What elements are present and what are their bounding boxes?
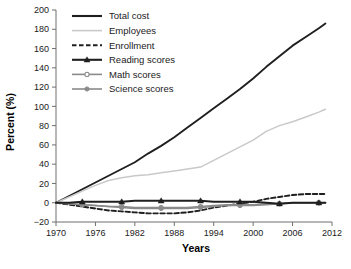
data-point-marker	[120, 205, 124, 209]
x-tick-label: 2000	[243, 228, 263, 238]
legend-item-total-cost[interactable]: Total cost	[72, 10, 149, 21]
legend-item-science-scores[interactable]: Science scores	[72, 83, 174, 94]
x-tick-label: 1976	[85, 228, 105, 238]
series-total-cost	[56, 23, 325, 202]
y-axis-title: Percent (%)	[4, 93, 16, 151]
data-point-marker	[159, 206, 163, 210]
legend-item-math-scores[interactable]: Math scores	[72, 69, 161, 80]
series-group	[56, 23, 325, 213]
legend-item-employees[interactable]: Employees	[72, 25, 156, 36]
y-tick-label: 0	[44, 198, 49, 208]
x-tick-label: 1994	[204, 228, 224, 238]
legend-label: Science scores	[109, 83, 174, 94]
legend-label: Employees	[109, 25, 156, 36]
x-tick-label: 1982	[125, 228, 145, 238]
legend-label: Total cost	[109, 10, 149, 21]
legend-item-enrollment[interactable]: Enrollment	[72, 40, 155, 51]
y-tick-label: 20	[39, 179, 49, 189]
y-tick-label: 60	[39, 140, 49, 150]
axes	[56, 10, 332, 222]
x-tick-label: 1988	[164, 228, 184, 238]
y-tick-label: −20	[34, 217, 49, 227]
x-tick-label: 1970	[46, 228, 66, 238]
legend-label: Enrollment	[109, 40, 155, 51]
series-reading-scores	[56, 198, 325, 206]
series-line	[56, 109, 325, 202]
y-tick-label: 180	[34, 24, 49, 34]
data-point-marker	[85, 87, 89, 91]
y-tick-label: 40	[39, 159, 49, 169]
legend-item-reading-scores[interactable]: Reading scores	[72, 54, 175, 65]
y-tick-label: 140	[34, 63, 49, 73]
line-chart-canvas: −20020406080100120140160180200 197019761…	[0, 0, 351, 269]
y-tick-label: 160	[34, 44, 49, 54]
x-axis-title: Years	[182, 242, 210, 254]
x-axis-ticks: 19701976198219881994200020062012	[46, 222, 342, 238]
y-tick-label: 100	[34, 102, 49, 112]
chart-figure: −20020406080100120140160180200 197019761…	[0, 0, 351, 269]
series-line	[56, 23, 325, 202]
x-tick-label: 2012	[322, 228, 342, 238]
y-tick-label: 120	[34, 82, 49, 92]
data-point-marker	[85, 72, 89, 76]
x-tick-label: 2006	[283, 228, 303, 238]
legend-label: Math scores	[109, 69, 161, 80]
data-point-marker	[198, 205, 202, 209]
chart-legend: Total costEmployeesEnrollmentReading sco…	[72, 10, 175, 94]
series-employees	[56, 109, 325, 202]
series-line	[56, 201, 325, 204]
legend-label: Reading scores	[109, 54, 175, 65]
y-axis-ticks: −20020406080100120140160180200	[34, 5, 56, 227]
y-tick-label: 80	[39, 121, 49, 131]
y-tick-label: 200	[34, 5, 49, 15]
